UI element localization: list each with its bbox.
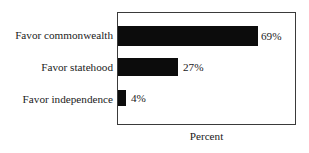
category-label-independence: Favor independence [0, 93, 113, 105]
bar-commonwealth [118, 26, 258, 46]
category-label-statehood: Favor statehood [0, 61, 113, 73]
bar-row-commonwealth: 69% [118, 26, 295, 46]
bar-chart-figure: Favor commonwealth Favor statehood Favor… [0, 0, 309, 153]
bar-row-independence: 4% [118, 90, 295, 106]
bar-independence [118, 90, 126, 106]
bar-value-independence: 4% [131, 92, 146, 104]
bar-statehood [118, 58, 178, 76]
plot-area-frame: 69% 27% 4% [117, 12, 296, 125]
category-axis-labels: Favor commonwealth Favor statehood Favor… [0, 0, 113, 127]
category-label-commonwealth: Favor commonwealth [0, 29, 113, 41]
bar-row-statehood: 27% [118, 58, 295, 76]
x-axis-title: Percent [117, 130, 296, 143]
bar-value-commonwealth: 69% [261, 30, 282, 42]
bar-value-statehood: 27% [183, 61, 204, 73]
